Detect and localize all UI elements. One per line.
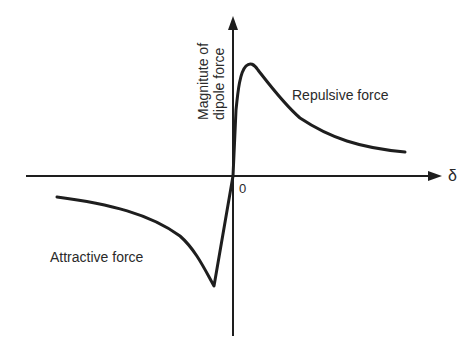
repulsive-force-label: Repulsive force	[292, 87, 389, 103]
x-axis-arrow-icon	[428, 171, 442, 181]
attractive-force-label: Attractive force	[50, 249, 144, 265]
y-axis-label-line2: dipole force	[211, 47, 227, 120]
origin-label: 0	[239, 181, 246, 196]
attractive-curve	[57, 176, 233, 286]
repulsive-curve	[233, 64, 405, 176]
x-axis-label: δ	[448, 167, 457, 184]
y-axis-arrow-icon	[228, 16, 238, 30]
y-axis-label-line1: Magnitute of	[195, 43, 211, 120]
dipole-force-diagram: Magnitute of dipole force δ 0 Repulsive …	[0, 0, 476, 348]
